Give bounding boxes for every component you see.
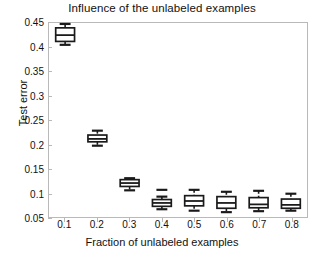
y-tick-label: 0.4 <box>30 41 44 52</box>
plot-area <box>48 22 308 218</box>
y-tick-label: 0.1 <box>30 188 44 199</box>
x-tick-mark <box>227 218 228 222</box>
box-iqr <box>281 199 300 208</box>
y-tick-mark <box>48 194 52 195</box>
x-tick-mark <box>162 218 163 222</box>
y-tick-mark <box>48 145 52 146</box>
y-tick-mark <box>48 96 52 97</box>
y-tick-label: 0.3 <box>30 90 44 101</box>
y-tick-label: 0.35 <box>25 66 44 77</box>
figure-canvas: Influence of the unlabeled examples Test… <box>0 0 324 261</box>
box-plot-item <box>120 178 139 190</box>
y-tick-label: 0.15 <box>25 164 44 175</box>
y-tick-label: 0.45 <box>25 17 44 28</box>
y-tick-label: 0.25 <box>25 115 44 126</box>
box-plot-item <box>56 24 75 45</box>
box-plot-item <box>217 192 236 212</box>
box-plot-item <box>152 190 171 209</box>
box-plot-item <box>249 191 268 211</box>
y-tick-mark <box>48 169 52 170</box>
box-plot-item <box>88 131 107 146</box>
x-tick-mark <box>64 218 65 222</box>
x-axis-label: Fraction of unlabeled examples <box>0 236 324 248</box>
box-iqr <box>249 198 268 208</box>
box-plot-item <box>185 190 204 211</box>
x-tick-mark <box>194 218 195 222</box>
x-tick-mark <box>129 218 130 222</box>
chart-title: Influence of the unlabeled examples <box>0 2 324 14</box>
y-tick-mark <box>48 47 52 48</box>
boxplot-series <box>49 23 307 217</box>
y-tick-mark <box>48 218 52 219</box>
y-tick-mark <box>48 120 52 121</box>
x-tick-mark <box>292 218 293 222</box>
x-tick-mark <box>259 218 260 222</box>
y-tick-label: 0.2 <box>30 139 44 150</box>
x-tick-mark <box>97 218 98 222</box>
y-tick-mark <box>48 22 52 23</box>
y-tick-mark <box>48 71 52 72</box>
box-plot-item <box>281 194 300 211</box>
